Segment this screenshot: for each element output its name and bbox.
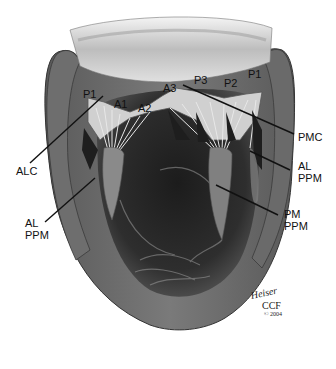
heart-illustration: P1 A1 A2 A3 P3 P2 P1 PMC AL PPM PM PPM A…	[0, 0, 336, 369]
label-a1: A1	[114, 98, 127, 110]
label-al-ppm-right: AL PPM	[298, 160, 322, 184]
signature-org: CCF	[262, 301, 282, 311]
label-p1-right: P1	[248, 68, 261, 80]
label-al-ppm-right-line2: PPM	[298, 172, 322, 184]
label-pm-ppm: PM PPM	[284, 208, 308, 232]
label-a2: A2	[138, 102, 151, 114]
label-pmc: PMC	[298, 131, 322, 143]
label-pm-ppm-line1: PM	[284, 208, 301, 220]
label-pm-ppm-line2: PPM	[284, 220, 308, 232]
label-al-ppm-left-line1: AL	[25, 217, 38, 229]
left-ventricle-drawing	[0, 0, 336, 369]
label-p2: P2	[224, 77, 237, 89]
label-al-ppm-right-line1: AL	[298, 160, 311, 172]
label-al-ppm-left: AL PPM	[25, 217, 49, 241]
label-p3: P3	[194, 74, 207, 86]
artist-signature: Heiser CCF © 2004	[252, 290, 282, 318]
label-a3: A3	[163, 82, 176, 94]
label-alc: ALC	[16, 165, 37, 177]
label-p1-left: P1	[83, 88, 96, 100]
label-al-ppm-left-line2: PPM	[25, 229, 49, 241]
signature-year: © 2004	[264, 311, 282, 318]
